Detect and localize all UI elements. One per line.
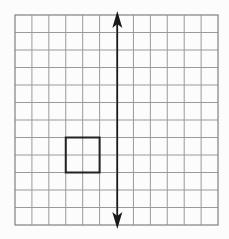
diagram-canvas [0, 0, 229, 239]
grid-diagram [0, 0, 229, 239]
